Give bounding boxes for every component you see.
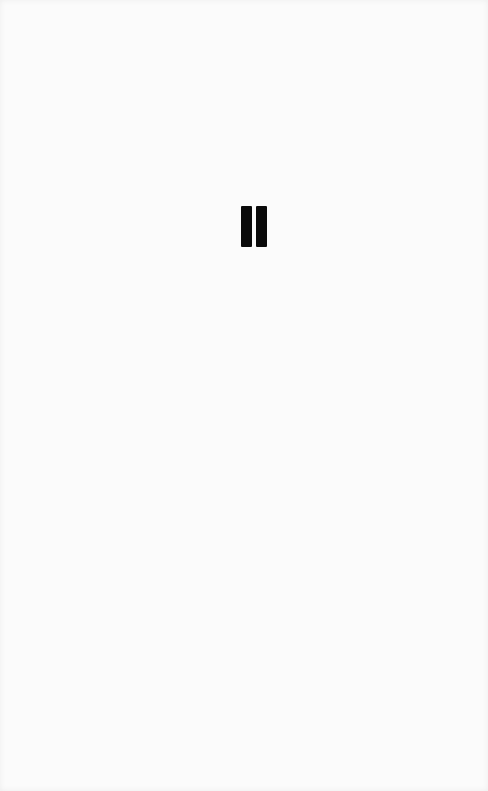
pause-bar-right	[256, 206, 267, 247]
pause-icon	[241, 206, 268, 247]
pause-button[interactable]	[238, 202, 271, 250]
pause-bar-left	[241, 206, 252, 247]
blank-screen	[0, 0, 488, 791]
